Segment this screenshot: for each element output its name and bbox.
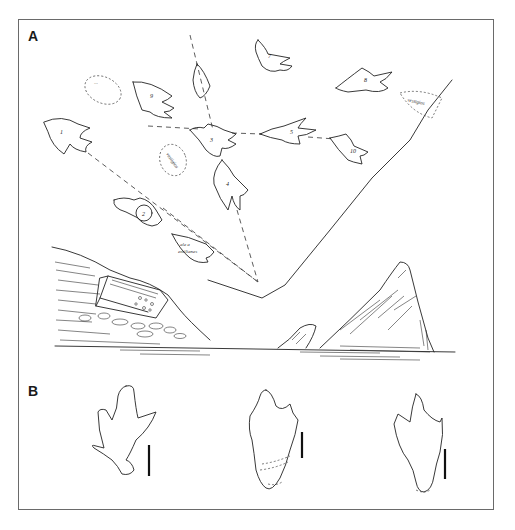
panel-b-footprint-3 [394,394,445,492]
water-hatching [120,350,420,360]
landscape-small-rock [278,324,316,348]
landscape-pyramid-rock [320,262,434,352]
svg-text:7: 7 [268,53,272,59]
dotted-ellipse-marks: ··· [80,70,125,110]
panel-b-footprint-2 [249,390,302,489]
svg-text:9: 9 [150,93,153,99]
footprint-4: 4 [214,160,248,210]
figure-caption-cropped [0,522,515,530]
panel-a-trackway-lines [88,35,452,298]
print-label-line1: ale a [180,242,190,247]
svg-text:2: 2 [142,211,145,217]
panel-b-footprint-1 [92,386,156,476]
svg-text:5: 5 [290,129,293,135]
figure-artwork: ··· vestigios vestigios 1 9 7 8 3 5 [0,0,515,530]
footprint-1: 1 [44,118,92,154]
svg-text:3: 3 [209,137,213,143]
svg-text:4: 4 [226,181,229,187]
svg-text:8: 8 [364,77,367,83]
svg-text:10: 10 [350,148,356,154]
ellipse-annotation-top-left: ··· [94,81,98,86]
footprint-8: 8 [336,68,392,92]
svg-text:1: 1 [60,129,63,135]
ellipse-annotation-center: vestigios [165,152,179,169]
footprint-5: 5 [260,118,316,144]
footprint-2: 2 [114,198,162,226]
footprint-7: 7 [255,40,292,71]
dotted-ellipse-vestigios: vestigios [155,141,190,180]
print-label-line2: emilianes [178,249,197,254]
footprint-10: 10 [330,134,368,164]
region-annotation-right: vestigios [407,97,425,106]
footprint-labelled-lower: ale a emilianes [172,234,214,263]
footprint-9: 9 [133,82,174,118]
dotted-region-vestigios-right: vestigios [400,91,442,118]
landscape-left-outcrop [52,247,210,344]
